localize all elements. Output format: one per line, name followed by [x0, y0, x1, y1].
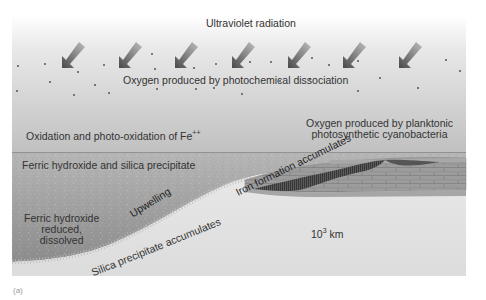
ferric-precipitate-label: Ferric hydroxide and silica precipitate — [22, 160, 195, 171]
banded-iron-formation-diagram: Ultraviolet radiation Oxygen produced by… — [0, 0, 486, 300]
panel-label: (a) — [13, 286, 23, 295]
diagram-canvas — [0, 0, 486, 300]
ferric-reduced-label: Ferric hydroxide reduced, dissolved — [24, 213, 99, 246]
oxygen-planktonic-label: Oxygen produced by planktonic photosynth… — [306, 118, 453, 140]
scale-label: 103 km — [311, 229, 344, 240]
ultraviolet-label: Ultraviolet radiation — [206, 18, 296, 29]
oxygen-photochemical-label: Oxygen produced by photochemical dissoci… — [123, 75, 348, 86]
oxidation-label: Oxidation and photo-oxidation of Fe++ — [26, 131, 201, 142]
